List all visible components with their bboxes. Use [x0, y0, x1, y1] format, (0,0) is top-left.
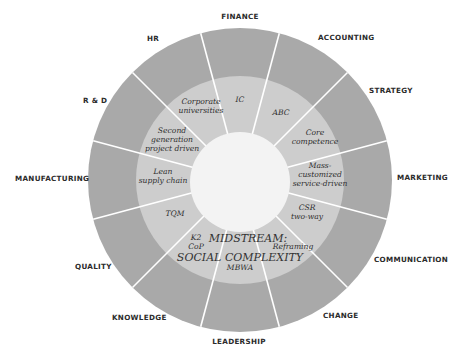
label-manufacturing: MANUFACTURING — [15, 174, 89, 183]
inner-label-second-line1: Second — [158, 126, 186, 135]
inner-label-csr-line1: CSR — [299, 203, 316, 212]
label-hr: HR — [147, 34, 159, 43]
label-knowledge: KNOWLEDGE — [112, 313, 167, 322]
label-strategy: STRATEGY — [369, 86, 413, 95]
inner-label-mbwa: MBWA — [226, 263, 254, 272]
label-quality: QUALITY — [75, 262, 112, 271]
label-marketing: MARKETING — [397, 173, 448, 182]
inner-label-tqm: TQM — [165, 209, 184, 218]
label-leadership: LEADERSHIP — [212, 337, 266, 346]
inner-label-ic: IC — [235, 95, 245, 104]
inner-label-core-line1: Core — [306, 128, 325, 137]
inner-label-lean-line1: Lean — [153, 167, 173, 176]
inner-label-corp-line2: universities — [179, 106, 224, 115]
inner-label-second-line3: project driven — [145, 144, 199, 153]
center-title-line2: SOCIAL COMPLEXITY — [177, 251, 305, 264]
inner-label-corp-line1: Corporate — [181, 97, 221, 106]
inner-label-second-line2: generation — [151, 135, 193, 144]
inner-label-mass-line1: Mass- — [308, 161, 332, 170]
center-title-line1: MIDSTREAM: — [208, 232, 288, 245]
inner-label-cop: CoP — [188, 242, 204, 251]
inner-label-mass-line3: service-driven — [293, 179, 348, 188]
label-rd: R & D — [83, 96, 107, 105]
midstream-diagram: FINANCE ACCOUNTING STRATEGY MARKETING CO… — [0, 0, 460, 355]
inner-label-k2: K2 — [190, 233, 202, 242]
inner-label-mass-line2: customized — [298, 170, 342, 179]
inner-label-abc: ABC — [271, 108, 289, 117]
inner-label-core-line2: competence — [292, 137, 339, 146]
label-change: CHANGE — [323, 311, 358, 320]
label-accounting: ACCOUNTING — [318, 33, 375, 42]
inner-label-csr-line2: two-way — [291, 212, 324, 221]
label-communication: COMMUNICATION — [374, 255, 448, 264]
label-finance: FINANCE — [221, 12, 258, 21]
inner-label-lean-line2: supply chain — [139, 176, 188, 185]
center-circle — [190, 132, 290, 232]
